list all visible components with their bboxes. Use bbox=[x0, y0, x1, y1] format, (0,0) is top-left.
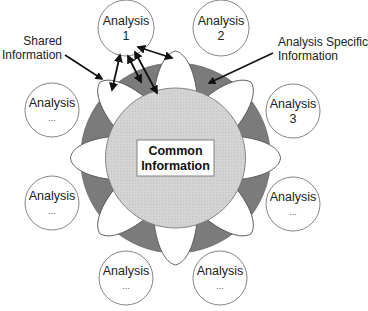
analysis-node-left-upper: Analysis ... bbox=[25, 83, 79, 137]
analysis-node-right-lower: Analysis ... bbox=[266, 177, 320, 231]
analysis-1-title: Analysis bbox=[103, 14, 150, 28]
analysis-node-ellipsis: ... bbox=[48, 113, 56, 123]
shared-information-arrow-icon bbox=[65, 55, 102, 79]
double-arrow-icon bbox=[138, 47, 172, 58]
analysis-node-title: Analysis bbox=[270, 190, 317, 204]
analysis-node-2: Analysis 2 bbox=[193, 0, 249, 56]
analysis-node-title: Analysis bbox=[197, 264, 244, 278]
analysis-node-bottom-left: Analysis ... bbox=[99, 251, 153, 305]
analysis-1-sub: 1 bbox=[123, 29, 130, 43]
shared-information-label-line1: Shared bbox=[23, 34, 62, 48]
analysis-node-3: Analysis 3 bbox=[266, 84, 320, 138]
analysis-node-ellipsis: ... bbox=[216, 281, 224, 291]
analysis-specific-arrow-icon bbox=[209, 53, 273, 83]
analysis-2-sub: 2 bbox=[218, 29, 225, 43]
analysis-node-ellipsis: ... bbox=[122, 281, 130, 291]
analysis-node-left-lower: Analysis ... bbox=[25, 176, 79, 230]
analysis-node-ellipsis: ... bbox=[289, 207, 297, 217]
analysis-specific-label-line1: Analysis Specific bbox=[278, 35, 368, 49]
analysis-2-title: Analysis bbox=[198, 14, 245, 28]
analysis-3-sub: 3 bbox=[290, 112, 297, 126]
analysis-node-1: Analysis 1 bbox=[98, 0, 154, 56]
analysis-node-title: Analysis bbox=[29, 96, 76, 110]
analysis-specific-label-line2: Information bbox=[278, 49, 338, 63]
common-information-label-line1: Common bbox=[148, 144, 202, 158]
analysis-node-title: Analysis bbox=[29, 189, 76, 203]
analysis-node-bottom-right: Analysis ... bbox=[193, 251, 247, 305]
analysis-node-title: Analysis bbox=[103, 264, 150, 278]
analysis-node-ellipsis: ... bbox=[48, 206, 56, 216]
analysis-information-diagram: Common Information Analysis 1 Analysis 2… bbox=[0, 0, 368, 311]
shared-information-label-line2: Information bbox=[2, 48, 62, 62]
analysis-3-title: Analysis bbox=[270, 97, 317, 111]
common-information-label-line2: Information bbox=[141, 159, 210, 173]
